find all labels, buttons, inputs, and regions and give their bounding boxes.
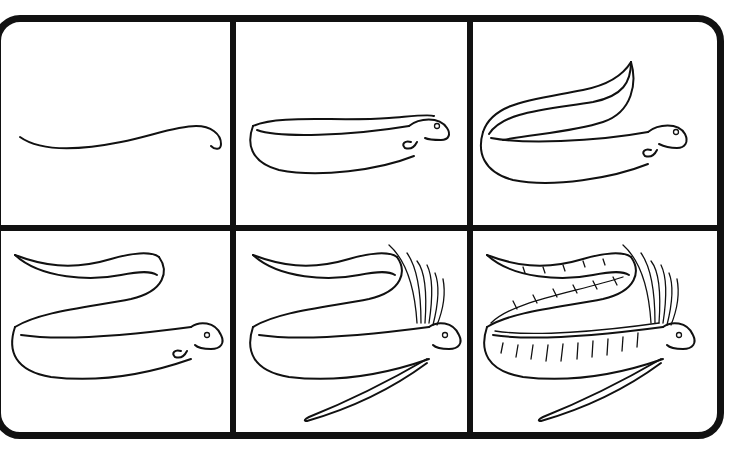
step-5-panel <box>239 231 467 432</box>
step-4-drawing <box>1 231 233 432</box>
step-3-panel <box>473 22 703 225</box>
step-2-drawing <box>239 22 467 225</box>
step-6-drawing <box>473 231 703 432</box>
step-6-panel <box>473 231 703 432</box>
row-divider <box>1 225 717 231</box>
step-4-panel <box>1 231 233 432</box>
step-5-drawing <box>239 231 467 432</box>
step-2-panel <box>239 22 467 225</box>
tutorial-frame <box>0 15 724 439</box>
step-1-drawing <box>1 22 233 225</box>
panel-grid <box>1 22 717 432</box>
step-1-panel <box>1 22 233 225</box>
step-3-drawing <box>473 22 703 225</box>
